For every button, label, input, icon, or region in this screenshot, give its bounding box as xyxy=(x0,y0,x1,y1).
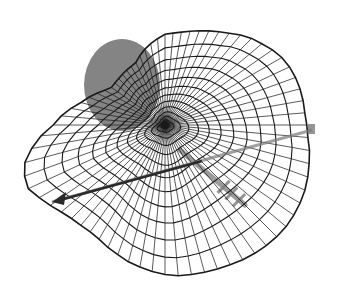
wireframe-surface-figure xyxy=(0,0,342,292)
mesh-canvas xyxy=(0,0,342,292)
polar-mesh xyxy=(25,31,310,276)
